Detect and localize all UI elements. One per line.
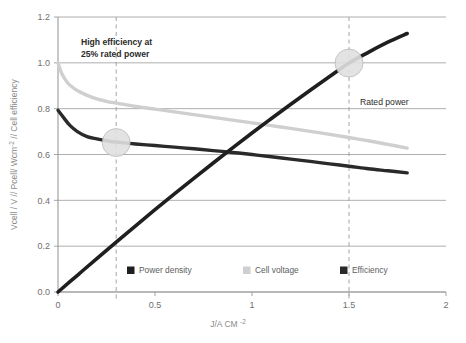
rated-power-annotation: Rated power bbox=[360, 97, 409, 107]
y-tick-label: 1.0 bbox=[37, 58, 50, 68]
high-efficiency-annotation-line1: High efficiency at bbox=[81, 37, 152, 47]
y-tick-label: 0.6 bbox=[37, 150, 50, 160]
high-efficiency-marker bbox=[102, 129, 130, 157]
y-tick-label: 0.2 bbox=[37, 241, 50, 251]
x-tick-label: 0.5 bbox=[149, 300, 162, 310]
legend-swatch-power-density bbox=[127, 267, 135, 275]
y-tick-label: 0.8 bbox=[37, 104, 50, 114]
y-tick-label: 0.0 bbox=[37, 287, 50, 297]
x-tick-label: 0 bbox=[55, 300, 60, 310]
y-axis-title: Vcell / V // Pcell/ Wcm-2 // Cell effici… bbox=[8, 79, 20, 230]
fuel-cell-performance-chart: 0.00.20.40.60.81.01.2 00.511.52 Vcell / … bbox=[0, 0, 466, 343]
legend-swatch-efficiency bbox=[340, 267, 348, 275]
rated-power-marker bbox=[335, 49, 363, 77]
x-tick-label: 1.5 bbox=[343, 300, 356, 310]
legend-swatch-cell-voltage bbox=[243, 267, 251, 275]
legend-label-efficiency: Efficiency bbox=[352, 265, 389, 275]
legend-label-power-density: Power density bbox=[139, 265, 192, 275]
x-tick-label: 1 bbox=[249, 300, 254, 310]
y-tick-label: 0.4 bbox=[37, 196, 50, 206]
high-efficiency-annotation-line2: 25% rated power bbox=[81, 49, 150, 59]
legend-label-cell-voltage: Cell voltage bbox=[255, 265, 299, 275]
x-tick-label: 2 bbox=[443, 300, 448, 310]
y-tick-label: 1.2 bbox=[37, 12, 50, 22]
